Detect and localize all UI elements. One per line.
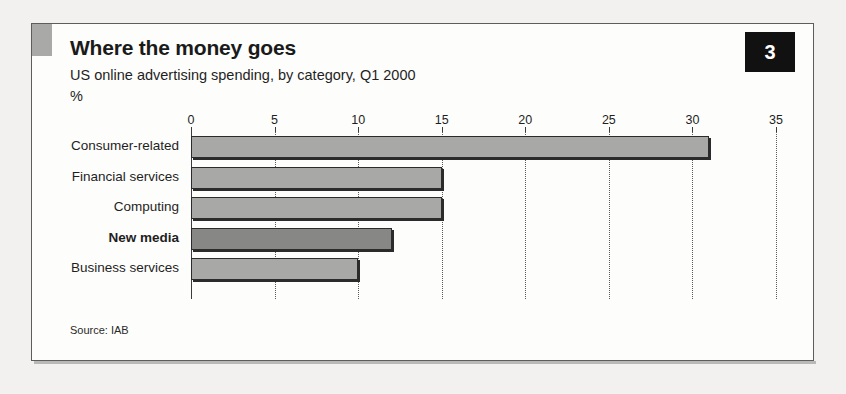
bar-new-media: [191, 228, 392, 250]
category-label: Business services: [71, 260, 179, 275]
source-note: Source: IAB: [70, 324, 129, 336]
plot-area: 05101520253035Consumer-relatedFinancial …: [191, 132, 776, 299]
x-axis-tick-label: 10: [351, 113, 365, 127]
tick-mark-20: [525, 127, 526, 132]
tick-mark-30: [692, 127, 693, 132]
tick-mark-35: [776, 127, 777, 132]
axis-unit-label: %: [70, 88, 83, 104]
x-axis-tick-label: 15: [435, 113, 449, 127]
x-axis-tick-label: 30: [685, 113, 699, 127]
page-title: Where the money goes: [70, 36, 296, 60]
x-axis-tick-label: 5: [271, 113, 278, 127]
category-label: Financial services: [72, 169, 179, 184]
figure-subtitle: US online advertising spending, by categ…: [70, 67, 416, 83]
bar-row: Consumer-related: [191, 136, 776, 158]
figure-number-badge: 3: [745, 32, 795, 72]
tick-mark-5: [275, 127, 276, 132]
tick-mark-15: [442, 127, 443, 132]
tick-mark-25: [609, 127, 610, 132]
category-label: Consumer-related: [71, 138, 179, 153]
bar-row: Financial services: [191, 167, 776, 189]
bar-row: Computing: [191, 197, 776, 219]
x-axis-tick-label: 35: [769, 113, 783, 127]
bar-financial-services: [191, 167, 442, 189]
tick-mark-10: [358, 127, 359, 132]
x-axis-tick-label: 20: [518, 113, 532, 127]
x-axis-tick-label: 25: [602, 113, 616, 127]
bar-business-services: [191, 258, 358, 280]
bar-consumer-related: [191, 136, 709, 158]
chart-page: Where the money goes US online advertisi…: [0, 0, 846, 394]
bar-row: Business services: [191, 258, 776, 280]
bar-computing: [191, 197, 442, 219]
figure-frame: Where the money goes US online advertisi…: [31, 23, 814, 361]
gridline-35: [776, 132, 778, 299]
tick-mark-0: [191, 127, 192, 132]
category-label: Computing: [114, 199, 179, 214]
x-axis-tick-label: 0: [188, 113, 195, 127]
category-label: New media: [108, 230, 179, 245]
bar-row: New media: [191, 228, 776, 250]
corner-tab-decoration: [32, 24, 52, 56]
